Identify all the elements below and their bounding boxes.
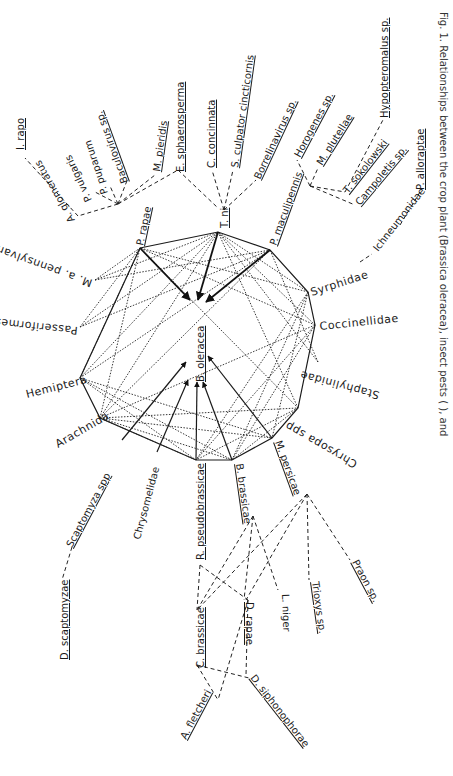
node-d-siphonophorae: D. siphonophorae (248, 672, 311, 749)
node-c-concinnata: C. concinnata (206, 100, 217, 168)
node-coccinellidae: Coccinellidae (319, 312, 399, 333)
node-hemiptera: Hemiptera (25, 373, 89, 401)
node-staphylinidae: Staphylinidae (299, 368, 381, 402)
node-praon: Praon sp. (350, 558, 382, 604)
node-chrysopa: Chrysopa spp (283, 419, 360, 471)
node-trioxys: Trioxys sp. (310, 580, 328, 634)
node-hypopteromalus: Hypopteromalus sp. (379, 18, 390, 118)
node-ichneumonidae: Ichneumonidae (371, 186, 427, 254)
node-syrphidae: Syrphidae (309, 268, 370, 299)
node-d-scaptomyzae: D. scaptomyzae (59, 580, 70, 660)
food-web-diagram: B. oleracea P. rapae T. ni P. maculipenn… (0, 0, 453, 776)
node-m-persicae: M. persicae (273, 439, 303, 497)
node-r-pseudobrassicae: R. pseudobrassicae (195, 463, 206, 560)
node-p-rapae: P. rapae (134, 205, 153, 246)
node-chrysomelidae: Chrysomelidae (131, 465, 161, 540)
figure-caption: Fig. 1. Relationships between the crop p… (438, 12, 449, 436)
node-p-alloraptae: P. alloraptae (415, 129, 426, 190)
node-scaptomyza: Scaptomyza spp (64, 471, 112, 549)
node-m-pennsylvanicus: M. a. pennsylvanicus (0, 234, 94, 289)
node-i-rapo: I. rapo (15, 118, 26, 150)
node-borrelinavirus: Borrelinavirus sp. (252, 97, 299, 181)
node-l-niger: L. niger (280, 594, 292, 633)
node-p-maculipennis: P. maculipennis (268, 170, 305, 246)
node-passeriformes: Passeriformes (0, 315, 78, 337)
node-c-brassicae: C. brassicae (195, 607, 206, 668)
node-b-brassicae: B. brassicae (234, 463, 253, 525)
node-s-culpator: S. culpator cincticornis (229, 54, 256, 168)
node-b-oleracea: B. oleracea (195, 326, 206, 382)
node-arachnida: Arachnida (53, 409, 112, 450)
node-e-sphaerosperma: E. sphaerosperma (175, 82, 186, 172)
node-d-rapae: D. rapae (244, 602, 255, 645)
node-m-pieridis: M. pieridis (151, 120, 169, 173)
node-a-fletcheri: A. fletcheri (178, 688, 213, 741)
node-t-ni: T. ni (219, 208, 230, 229)
